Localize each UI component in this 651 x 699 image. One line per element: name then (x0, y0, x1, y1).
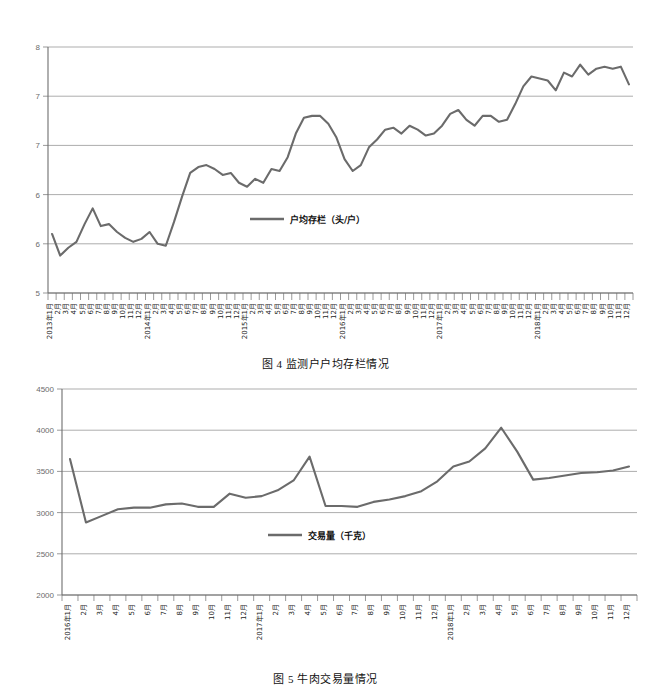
y-axis-label: 7 (36, 141, 41, 150)
x-axis-label: 10月 (217, 303, 225, 319)
x-axis-label: 8月 (367, 604, 375, 615)
x-axis-label: 6月 (87, 303, 95, 314)
figure-5-container: 4500400035003000250020002016年1月2月3月4月5月6… (0, 387, 651, 686)
x-axis-label: 2015年1月 (240, 303, 249, 339)
x-axis-label: 8月 (559, 604, 567, 615)
x-axis-label: 11月 (420, 303, 428, 319)
x-axis-label: 12月 (330, 303, 338, 319)
x-axis-label: 7月 (290, 303, 298, 314)
x-axis-label: 4月 (265, 303, 273, 314)
figure-5-caption: 图 5 牛肉交易量情况 (0, 670, 651, 686)
x-axis-label: 2月 (54, 303, 62, 314)
x-axis-label: 12月 (135, 303, 143, 319)
x-axis-label: 3月 (288, 604, 296, 615)
x-axis-label: 5月 (176, 303, 184, 314)
x-axis-label: 7月 (582, 303, 590, 314)
x-axis-label: 10月 (119, 303, 127, 319)
x-axis-label: 7月 (351, 604, 359, 615)
legend-label: 交易量（千克） (308, 530, 371, 541)
y-axis-label: 5 (36, 289, 41, 298)
y-axis-label: 4500 (36, 387, 54, 394)
x-axis-label: 2月 (249, 303, 257, 314)
x-axis-label: 7月 (95, 303, 103, 314)
x-axis-label: 10月 (607, 303, 615, 319)
x-axis-label: 4月 (558, 303, 566, 314)
x-axis-label: 9月 (306, 303, 314, 314)
x-axis-label: 11月 (127, 303, 135, 319)
chart-2-svg: 4500400035003000250020002016年1月2月3月4月5月6… (0, 387, 651, 662)
chart-1-area: 8776652013年1月2月3月4月5月6月7月8月9月10月11月12月20… (0, 0, 651, 355)
x-axis-label: 4月 (304, 604, 312, 615)
x-axis-label: 11月 (225, 303, 233, 319)
x-axis-label: 2月 (444, 303, 452, 314)
x-axis-label: 4月 (168, 303, 176, 314)
x-axis-label: 8月 (590, 303, 598, 314)
x-axis-label: 2月 (80, 604, 88, 615)
x-axis-label: 7月 (485, 303, 493, 314)
x-axis-label: 9月 (209, 303, 217, 314)
x-axis-label: 3月 (452, 303, 460, 314)
x-axis-label: 2017年1月 (255, 604, 264, 640)
x-axis-label: 2月 (272, 604, 280, 615)
x-axis-label: 2016年1月 (338, 303, 347, 339)
x-axis-label: 9月 (192, 604, 200, 615)
chart-1-svg: 8776652013年1月2月3月4月5月6月7月8月9月10月11月12月20… (0, 0, 651, 355)
x-axis-label: 11月 (615, 303, 623, 319)
x-axis-label: 3月 (62, 303, 70, 314)
y-axis-label: 2000 (36, 591, 54, 600)
x-axis-label: 5月 (511, 604, 519, 615)
x-axis-label: 2013年1月 (45, 303, 54, 339)
data-series-line (52, 65, 629, 256)
figure-4-container: 8776652013年1月2月3月4月5月6月7月8月9月10月11月12月20… (0, 0, 651, 371)
x-axis-label: 2月 (347, 303, 355, 314)
x-axis-label: 2014年1月 (143, 303, 152, 339)
y-axis-label: 2500 (36, 550, 54, 559)
x-axis-label: 8月 (298, 303, 306, 314)
x-axis-label: 5月 (371, 303, 379, 314)
x-axis-label: 2018年1月 (446, 604, 455, 640)
x-axis-label: 5月 (320, 604, 328, 615)
x-axis-label: 10月 (412, 303, 420, 319)
x-axis-label: 2月 (152, 303, 160, 314)
x-axis-label: 6月 (336, 604, 344, 615)
x-axis-label: 12月 (623, 604, 631, 620)
x-axis-label: 6月 (144, 604, 152, 615)
y-axis-label: 3000 (36, 509, 54, 518)
x-axis-label: 6月 (282, 303, 290, 314)
x-axis-label: 4月 (495, 604, 503, 615)
x-axis-label: 12月 (428, 303, 436, 319)
x-axis-label: 5月 (566, 303, 574, 314)
x-axis-label: 8月 (176, 604, 184, 615)
x-axis-label: 8月 (395, 303, 403, 314)
x-axis-label: 2018年1月 (533, 303, 542, 339)
x-axis-label: 5月 (128, 604, 136, 615)
y-axis-label: 3500 (36, 467, 54, 476)
legend-label: 户均存栏（头/户） (290, 214, 365, 225)
x-axis-label: 10月 (208, 604, 216, 620)
x-axis-label: 7月 (160, 604, 168, 615)
x-axis-label: 2月 (463, 604, 471, 615)
x-axis-label: 7月 (543, 604, 551, 615)
x-axis-label: 5月 (274, 303, 282, 314)
x-axis-label: 8月 (200, 303, 208, 314)
y-axis-label: 4000 (36, 426, 54, 435)
figure-4-caption: 图 4 监测户户均存栏情况 (0, 355, 651, 371)
x-axis-label: 4月 (460, 303, 468, 314)
x-axis-label: 9月 (575, 604, 583, 615)
x-axis-label: 9月 (383, 604, 391, 615)
x-axis-label: 8月 (493, 303, 501, 314)
y-axis-label: 7 (36, 92, 41, 101)
x-axis-label: 3月 (355, 303, 363, 314)
x-axis-label: 11月 (224, 604, 232, 620)
x-axis-label: 5月 (79, 303, 87, 314)
x-axis-label: 10月 (399, 604, 407, 620)
x-axis-label: 11月 (607, 604, 615, 620)
x-axis-label: 10月 (591, 604, 599, 620)
x-axis-label: 7月 (192, 303, 200, 314)
x-axis-label: 7月 (387, 303, 395, 314)
x-axis-label: 12月 (240, 604, 248, 620)
x-axis-label: 12月 (623, 303, 631, 319)
x-axis-label: 4月 (363, 303, 371, 314)
y-axis-label: 8 (36, 43, 41, 52)
x-axis-label: 3月 (160, 303, 168, 314)
